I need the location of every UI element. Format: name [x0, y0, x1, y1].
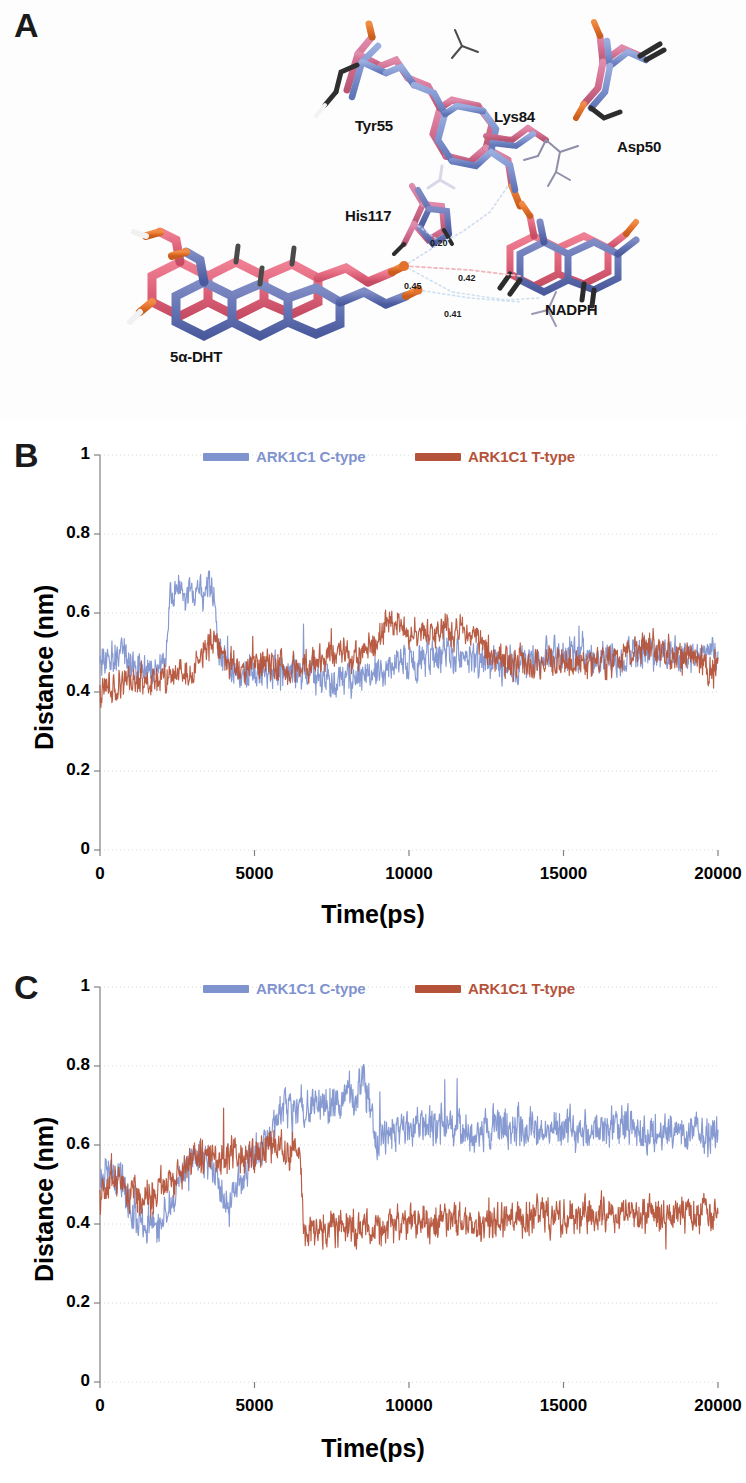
x-tick-label: 10000 — [364, 1396, 454, 1416]
residue-tyr55 — [316, 24, 520, 206]
x-axis-title-c: Time(ps) — [0, 1434, 746, 1463]
legend-swatch-t-type — [415, 453, 461, 461]
label-distance-0-41: 0.41 — [444, 309, 462, 319]
x-tick-label: 20000 — [673, 864, 746, 884]
label-distance-0-20: 0.20 — [430, 238, 448, 248]
legend-item-c-type-b: ARK1C1 C-type — [203, 448, 366, 465]
x-tick-label: 15000 — [519, 1396, 609, 1416]
legend-swatch-c-type — [203, 453, 249, 461]
residue-asp50 — [576, 22, 664, 118]
x-tick-label: 15000 — [519, 864, 609, 884]
y-tick-label: 0.6 — [34, 602, 90, 622]
legend-label-c-type: ARK1C1 C-type — [256, 980, 366, 997]
legend-label-c-type: ARK1C1 C-type — [256, 448, 366, 465]
y-tick-label: 0.2 — [34, 1292, 90, 1312]
label-lys84: Lys84 — [494, 108, 535, 125]
label-5a-dht: 5α-DHT — [170, 348, 222, 365]
legend-item-t-type-b: ARK1C1 T-type — [415, 448, 575, 465]
label-asp50: Asp50 — [617, 138, 661, 155]
y-tick-label: 1 — [34, 444, 90, 464]
panel-b-distance-plot: B Distance (nm) Time(ps) ARK1C1 C-type A… — [0, 420, 746, 950]
label-nadph: NADPH — [545, 301, 597, 318]
label-distance-0-42: 0.42 — [458, 273, 476, 283]
y-tick-label: 0 — [34, 1371, 90, 1391]
x-tick-label: 0 — [55, 1396, 145, 1416]
y-tick-label: 0.8 — [34, 1055, 90, 1075]
label-tyr55: Tyr55 — [355, 117, 393, 134]
legend-swatch-c-type — [203, 985, 249, 993]
y-tick-label: 1 — [34, 976, 90, 996]
y-tick-label: 0.4 — [34, 1213, 90, 1233]
y-tick-label: 0 — [34, 839, 90, 859]
label-distance-0-45: 0.45 — [404, 281, 422, 291]
panel-a-molecular-structure: A — [0, 0, 746, 420]
ligand-5a-dht — [130, 232, 418, 336]
label-his117: His117 — [345, 207, 391, 224]
x-axis-title-b: Time(ps) — [0, 900, 746, 929]
panel-c-distance-plot: C Distance (nm) Time(ps) ARK1C1 C-type A… — [0, 950, 746, 1483]
x-tick-label: 20000 — [673, 1396, 746, 1416]
x-tick-label: 0 — [55, 864, 145, 884]
x-tick-label: 5000 — [210, 1396, 300, 1416]
legend-item-c-type-c: ARK1C1 C-type — [203, 980, 366, 997]
legend-label-t-type: ARK1C1 T-type — [468, 980, 575, 997]
legend-swatch-t-type — [415, 985, 461, 993]
legend-item-t-type-c: ARK1C1 T-type — [415, 980, 575, 997]
y-tick-label: 0.2 — [34, 760, 90, 780]
legend-label-t-type: ARK1C1 T-type — [468, 448, 575, 465]
x-tick-label: 10000 — [364, 864, 454, 884]
y-tick-label: 0.8 — [34, 523, 90, 543]
x-tick-label: 5000 — [210, 864, 300, 884]
y-tick-label: 0.4 — [34, 681, 90, 701]
y-tick-label: 0.6 — [34, 1134, 90, 1154]
